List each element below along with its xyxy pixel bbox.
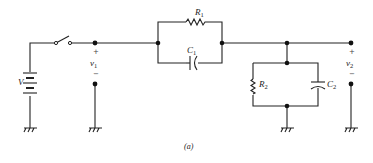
figure-caption: (a) [184,143,193,151]
circuit-schematic [0,0,373,163]
v2-label: v2 [346,59,353,70]
ground-icons [24,128,358,132]
resistor-r1 [186,19,208,25]
resistor-r2 [251,79,255,94]
c1-label: C1 [187,46,196,57]
v1-label: v1 [90,59,97,70]
switch-contacts [54,41,71,44]
v2-minus: − [349,71,355,78]
r1-label: R1 [195,8,204,19]
switch-blade [56,36,69,43]
v1-plus: + [93,49,99,56]
junction-dots [93,41,354,109]
r2-label: R2 [259,80,268,91]
v2-plus: + [349,49,355,56]
v1-minus: − [93,71,99,78]
source-label: V [18,78,24,87]
c2-label: C2 [327,80,336,91]
wire-source [30,43,55,128]
battery-icon [23,73,37,93]
capacitor-c1-curve [195,56,198,70]
